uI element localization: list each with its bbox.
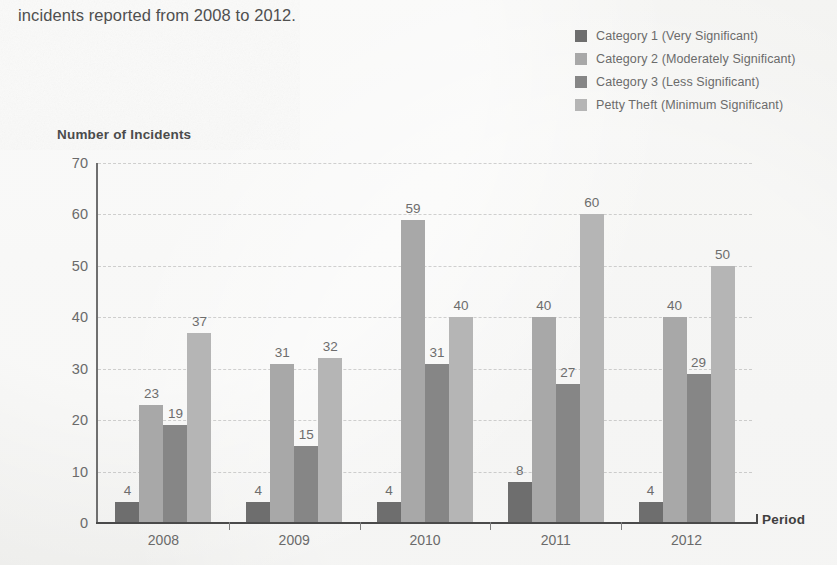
y-axis-tick-label: 20 xyxy=(54,412,88,428)
bar xyxy=(556,384,580,523)
y-axis-tick-label: 0 xyxy=(54,515,88,531)
bar-value-label: 4 xyxy=(385,483,393,498)
x-axis-end-cap xyxy=(756,514,758,524)
x-axis-title: Period xyxy=(762,512,805,527)
y-axis-tick-label: 30 xyxy=(54,361,88,377)
x-axis-tick-label: 2009 xyxy=(279,532,310,548)
bar xyxy=(294,446,318,523)
bar-value-label: 31 xyxy=(275,345,290,360)
legend-swatch-icon xyxy=(575,99,587,111)
bar-value-label: 19 xyxy=(168,406,183,421)
legend-swatch-icon xyxy=(575,53,587,65)
x-axis-tick-label: 2011 xyxy=(541,532,571,548)
bar xyxy=(663,317,687,523)
bar xyxy=(115,502,139,523)
x-axis-tick-mark xyxy=(490,522,491,530)
bar-value-label: 40 xyxy=(667,298,682,313)
bar-value-label: 50 xyxy=(715,247,730,262)
bar-value-label: 15 xyxy=(299,427,314,442)
bar xyxy=(377,502,401,523)
bar-value-label: 27 xyxy=(560,365,575,380)
legend-item-label: Category 2 (Moderately Significant) xyxy=(596,52,795,66)
y-axis-tick-label: 40 xyxy=(54,309,88,325)
y-axis-tick-label: 70 xyxy=(54,155,88,171)
bar-value-label: 40 xyxy=(453,298,468,313)
bar-value-label: 60 xyxy=(584,195,599,210)
bar-value-label: 4 xyxy=(254,483,262,498)
y-axis-tick-label: 50 xyxy=(54,258,88,274)
bar xyxy=(425,364,449,523)
plot-area: 42319374311532459314084027604402950 xyxy=(98,163,752,523)
bar-value-label: 29 xyxy=(691,355,706,370)
chart-legend: Category 1 (Very Significant)Category 2 … xyxy=(575,28,795,112)
bar-value-label: 4 xyxy=(124,483,132,498)
x-axis-tick-label: 2008 xyxy=(148,532,179,548)
bar xyxy=(508,482,532,523)
bar xyxy=(318,358,342,523)
bar xyxy=(639,502,663,523)
gridline xyxy=(98,214,752,215)
gridline xyxy=(98,266,752,267)
bar xyxy=(401,220,425,523)
bar xyxy=(246,502,270,523)
legend-item-label: Petty Theft (Minimum Significant) xyxy=(596,98,783,112)
x-axis-tick-label: 2012 xyxy=(671,532,702,548)
bar-value-label: 37 xyxy=(192,314,207,329)
bar-value-label: 40 xyxy=(536,298,551,313)
bar-value-label: 31 xyxy=(429,345,444,360)
y-axis-tick-label: 10 xyxy=(54,464,88,480)
legend-swatch-icon xyxy=(575,76,587,88)
bar xyxy=(187,333,211,523)
legend-item: Category 2 (Moderately Significant) xyxy=(575,51,795,66)
bar xyxy=(580,214,604,523)
x-axis-tick-mark xyxy=(229,522,230,530)
bar-value-label: 23 xyxy=(144,386,159,401)
x-axis-tick-mark xyxy=(360,522,361,530)
legend-item: Category 1 (Very Significant) xyxy=(575,28,795,43)
bar xyxy=(449,317,473,523)
bar xyxy=(139,405,163,523)
y-axis-tick-labels: 010203040506070 xyxy=(50,0,88,565)
legend-item-label: Category 3 (Less Significant) xyxy=(596,75,759,89)
bar xyxy=(163,425,187,523)
legend-item: Category 3 (Less Significant) xyxy=(575,74,795,89)
bar xyxy=(270,364,294,523)
bar xyxy=(532,317,556,523)
bar-value-label: 4 xyxy=(647,483,655,498)
bar-value-label: 32 xyxy=(323,339,338,354)
legend-swatch-icon xyxy=(575,30,587,42)
bar-value-label: 59 xyxy=(405,201,420,216)
y-axis-tick-label: 60 xyxy=(54,206,88,222)
bar xyxy=(711,266,735,523)
x-axis-line xyxy=(96,522,758,524)
bar xyxy=(687,374,711,523)
legend-item: Petty Theft (Minimum Significant) xyxy=(575,97,795,112)
x-axis-tick-mark xyxy=(621,522,622,530)
gridline xyxy=(98,163,752,164)
x-axis-tick-label: 2010 xyxy=(409,532,440,548)
bar-value-label: 8 xyxy=(516,463,524,478)
legend-item-label: Category 1 (Very Significant) xyxy=(596,29,758,43)
